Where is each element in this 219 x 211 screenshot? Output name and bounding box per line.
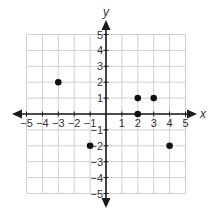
x-tick-label: 5	[182, 117, 188, 129]
x-tick-label: −5	[20, 117, 33, 129]
x-tick-label: 1	[119, 117, 125, 129]
y-tick-label: −1	[90, 124, 103, 136]
arrow-down-icon	[102, 198, 111, 208]
y-tick-label: −4	[90, 172, 103, 184]
x-tick-label: 2	[135, 117, 141, 129]
x-axis-label: x	[199, 107, 207, 121]
data-point	[166, 143, 173, 150]
y-tick-label: 3	[97, 60, 103, 72]
data-point	[55, 79, 62, 86]
x-tick-label: 3	[151, 117, 157, 129]
y-axis-label: y	[102, 5, 110, 19]
y-tick-label: 5	[97, 29, 103, 41]
y-tick-label: −3	[90, 156, 103, 168]
y-tick-label: 1	[97, 92, 103, 104]
y-tick-label: 2	[97, 76, 103, 88]
x-tick-label: −2	[68, 117, 81, 129]
x-tick-label: −3	[52, 117, 65, 129]
y-tick-label: 4	[97, 44, 103, 56]
data-point	[135, 111, 142, 118]
data-point	[87, 143, 94, 150]
y-tick-label: −5	[90, 188, 103, 200]
x-tick-label: −4	[36, 117, 49, 129]
data-point	[135, 95, 142, 102]
coordinate-plane: −5−4−3−2−112345−5−4−3−2−112345 x y	[0, 0, 219, 211]
x-tick-label: 4	[167, 117, 173, 129]
data-point	[150, 95, 157, 102]
